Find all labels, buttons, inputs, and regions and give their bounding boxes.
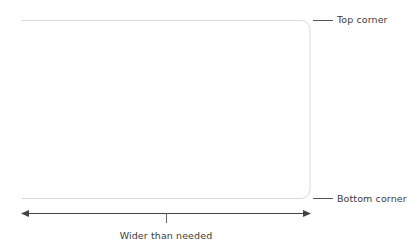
top-corner-label: Top corner [337,14,388,25]
rounded-rectangle-shape [22,21,310,199]
bottom-corner-label: Bottom corner [337,193,407,204]
width-measure-caption: Wider than needed [0,230,332,241]
width-measurement-arrow [21,210,311,223]
width-measure-arrowhead-left [21,210,29,217]
diagram-canvas [0,0,418,247]
width-measure-arrowhead-right [303,210,311,217]
